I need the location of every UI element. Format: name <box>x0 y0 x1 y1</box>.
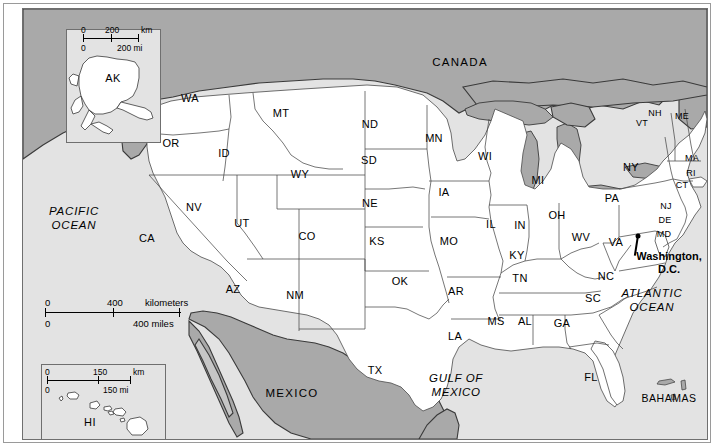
state-label-ct: CT <box>676 181 689 190</box>
ak-scale-km-unit: km <box>141 25 152 35</box>
map-canvas[interactable]: .land{fill:#ffffff;stroke:#4a4a4a;stroke… <box>22 8 708 440</box>
state-label-de: DE <box>658 216 671 225</box>
state-label-pa: PA <box>605 193 619 204</box>
country-label-canada: CANADA <box>432 57 488 69</box>
state-label-in: IN <box>514 220 526 231</box>
state-label-ca: CA <box>139 233 155 244</box>
alaska-scale-bar: 0 200 km 0 200 mi <box>81 25 163 55</box>
hi-scale-mi-start: 0 <box>45 385 50 395</box>
state-label-ny: NY <box>623 162 639 173</box>
state-label-hi: HI <box>84 417 96 428</box>
state-label-nm: NM <box>286 290 304 301</box>
state-label-wi: WI <box>478 151 492 162</box>
state-label-al: AL <box>518 316 532 327</box>
main-scale-km-start: 0 <box>45 297 50 308</box>
state-label-nj: NJ <box>660 202 672 211</box>
hi-scale-km-mid: 150 <box>93 367 107 377</box>
state-label-ne: NE <box>362 198 378 209</box>
state-label-ia: IA <box>439 187 450 198</box>
state-label-mn: MN <box>425 133 443 144</box>
state-label-wa: WA <box>181 93 199 104</box>
state-label-co: CO <box>298 231 315 242</box>
state-label-ms: MS <box>487 316 504 327</box>
state-label-oh: OH <box>548 210 565 221</box>
water-label-gulf-of-mexico: GULF OFMEXICO <box>429 372 483 399</box>
us-reference-map: .land{fill:#ffffff;stroke:#4a4a4a;stroke… <box>0 0 716 448</box>
water-label-line2: OCEAN <box>52 219 97 231</box>
water-label-line2: MEXICO <box>432 386 481 398</box>
state-label-nd: ND <box>362 119 379 130</box>
state-label-ak: AK <box>105 73 120 84</box>
state-label-az: AZ <box>226 284 241 295</box>
washington-dc-label: Washington, D.C. <box>636 250 702 275</box>
ak-scale-mi-end: 200 mi <box>117 43 143 53</box>
water-label-pacific-ocean: PACIFICOCEAN <box>49 205 99 232</box>
main-scale-km-mid: 400 <box>107 297 123 308</box>
state-label-mo: MO <box>440 236 458 247</box>
state-label-nc: NC <box>598 271 615 282</box>
state-label-ri: RI <box>686 169 696 178</box>
hi-scale-mi-end: 150 mi <box>103 385 129 395</box>
state-label-or: OR <box>162 138 179 149</box>
state-label-sc: SC <box>585 293 601 304</box>
state-label-ar: AR <box>448 286 464 297</box>
state-label-wy: WY <box>291 169 309 180</box>
country-label-mexico: MEXICO <box>265 388 318 400</box>
state-label-mt: MT <box>273 108 289 119</box>
state-label-md: MD <box>657 230 672 239</box>
state-label-il: IL <box>486 219 496 230</box>
main-scale-mi-end: 400 miles <box>133 318 174 329</box>
state-label-ma: MA <box>685 154 699 163</box>
state-label-sd: SD <box>361 155 377 166</box>
state-label-ga: GA <box>554 318 571 329</box>
main-scale-bar: 0 400 kilometers 0 400 miles <box>45 297 195 331</box>
dc-label-line1: Washington, <box>636 250 702 262</box>
state-label-la: LA <box>448 331 462 342</box>
state-label-va: VA <box>609 237 623 248</box>
state-label-ut: UT <box>234 218 249 229</box>
island-label-bahamas: BAHAMAS <box>642 393 697 404</box>
state-label-nh: NH <box>648 109 662 118</box>
state-label-mi: MI <box>532 175 545 186</box>
water-label-line1: GULF OF <box>429 372 483 384</box>
state-label-id: ID <box>218 148 230 159</box>
state-label-tn: TN <box>512 273 527 284</box>
main-scale-km-unit: kilometers <box>145 297 188 308</box>
state-label-tx: TX <box>368 365 383 376</box>
water-label-line2: OCEAN <box>630 301 675 313</box>
state-label-ok: OK <box>392 276 409 287</box>
state-label-vt: VT <box>636 119 648 128</box>
state-label-wv: WV <box>572 232 590 243</box>
state-label-ks: KS <box>369 236 384 247</box>
water-label-atlantic-ocean: ATLANTICOCEAN <box>621 287 682 314</box>
water-label-line1: PACIFIC <box>49 205 99 217</box>
water-label-line1: ATLANTIC <box>621 287 682 299</box>
state-label-nv: NV <box>186 202 202 213</box>
dc-label-line2: D.C. <box>658 263 680 275</box>
main-scale-mi-start: 0 <box>45 318 50 329</box>
hi-scale-km-unit: km <box>133 367 144 377</box>
ak-scale-mi-start: 0 <box>81 43 86 53</box>
state-label-fl: FL <box>584 372 597 383</box>
state-label-me: ME <box>675 112 689 121</box>
hawaii-scale-bar: 0 150 km 0 150 mi <box>45 367 155 397</box>
state-label-ky: KY <box>509 250 524 261</box>
